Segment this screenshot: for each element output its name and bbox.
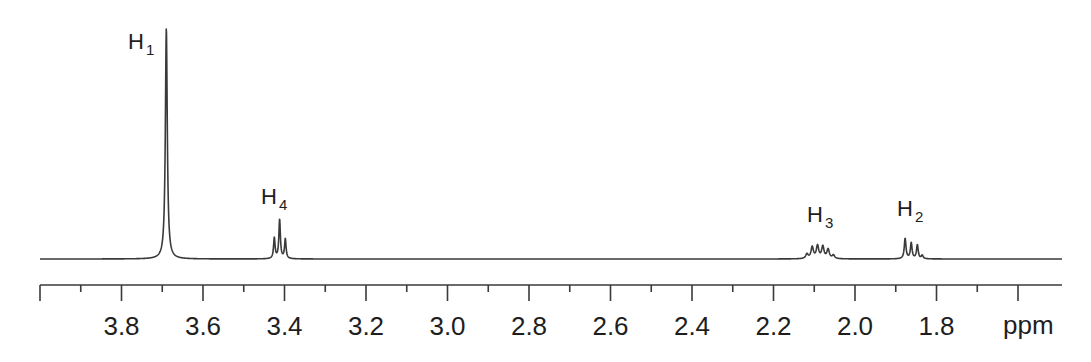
peak-label-h2: H2 — [897, 196, 923, 225]
x-tick-label: 3.2 — [348, 311, 384, 341]
x-tick-label: 2.6 — [592, 311, 628, 341]
x-tick-label: 2.0 — [837, 311, 873, 341]
x-tick-label: 3.8 — [103, 311, 139, 341]
x-tick-label: 3.6 — [185, 311, 221, 341]
x-axis: 3.83.63.43.23.02.82.62.42.22.01.8 ppm — [40, 285, 1062, 341]
peak-label-h4: H4 — [261, 184, 287, 213]
x-axis-tick-labels: 3.83.63.43.23.02.82.62.42.22.01.8 — [103, 311, 954, 341]
x-tick-label: 2.4 — [674, 311, 710, 341]
x-tick-label: 3.4 — [266, 311, 302, 341]
plot-area — [40, 29, 1062, 259]
nmr-spectrum-chart: H1H4H3H2 3.83.63.43.23.02.82.62.42.22.01… — [0, 0, 1091, 362]
x-tick-label: 2.8 — [511, 311, 547, 341]
peak-label-h1: H1 — [128, 29, 154, 58]
spectrum-trace — [40, 29, 1062, 259]
x-tick-label: 1.8 — [918, 311, 954, 341]
x-tick-label: 2.2 — [755, 311, 791, 341]
x-axis-ticks — [40, 285, 1018, 301]
x-axis-unit-label: ppm — [1003, 310, 1054, 340]
x-tick-label: 3.0 — [429, 311, 465, 341]
peak-label-h3: H3 — [807, 202, 833, 231]
peak-labels: H1H4H3H2 — [128, 29, 923, 231]
